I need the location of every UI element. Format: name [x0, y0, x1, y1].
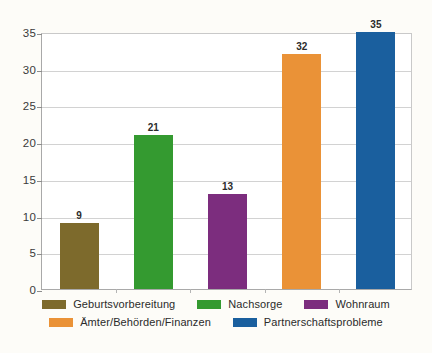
y-axis-tick-mark — [37, 144, 42, 145]
legend-row: GeburtsvorbereitungNachsorgeWohnraum — [0, 298, 432, 310]
bar-value-label: 35 — [356, 19, 396, 30]
legend-entry[interactable]: Wohnraum — [304, 298, 389, 310]
x-axis-tick-mark — [339, 289, 340, 293]
bar-value-label: 9 — [59, 210, 99, 221]
x-axis-tick-mark — [116, 289, 117, 293]
y-axis-tick-label: 25 — [6, 100, 36, 112]
legend-label: Nachsorge — [228, 298, 282, 310]
y-axis-tick-mark — [37, 291, 42, 292]
x-axis-tick-mark — [265, 289, 266, 293]
y-axis-tick-label: 35 — [6, 27, 36, 39]
legend-color-swatch-icon — [197, 300, 221, 309]
bar-value-label: 13 — [208, 181, 248, 192]
legend-color-swatch-icon — [42, 300, 66, 309]
legend-label: Geburtsvorbereitung — [73, 298, 175, 310]
y-axis-tick-mark — [37, 107, 42, 108]
y-axis-tick-label: 5 — [6, 247, 36, 259]
y-axis-tick-mark — [37, 218, 42, 219]
y-axis-tick-mark — [37, 34, 42, 35]
y-axis-tick-label: 10 — [6, 211, 36, 223]
legend-label: Partnerschaftsprobleme — [264, 316, 383, 328]
legend-entry[interactable]: Ämter/Behörden/Finanzen — [49, 316, 211, 328]
x-axis-tick-mark — [190, 289, 191, 293]
legend-entry[interactable]: Nachsorge — [197, 298, 282, 310]
y-axis-tick-label: 0 — [6, 284, 36, 296]
legend-label: Ämter/Behörden/Finanzen — [80, 316, 211, 328]
plot-area: 921133235 — [41, 33, 412, 290]
y-axis-tick-mark — [37, 254, 42, 255]
legend-entry[interactable]: Partnerschaftsprobleme — [233, 316, 383, 328]
legend-row: Ämter/Behörden/FinanzenPartnerschaftspro… — [0, 316, 432, 328]
chart-legend: GeburtsvorbereitungNachsorgeWohnraumÄmte… — [0, 298, 432, 334]
bar-value-label: 21 — [133, 122, 173, 133]
legend-color-swatch-icon — [49, 318, 73, 327]
bar — [134, 135, 173, 289]
legend-entry[interactable]: Geburtsvorbereitung — [42, 298, 175, 310]
bar — [356, 32, 395, 289]
y-axis-tick-mark — [37, 181, 42, 182]
legend-color-swatch-icon — [233, 318, 257, 327]
bar-chart-figure: 05101520253035 921133235 Geburtsvorberei… — [0, 0, 432, 353]
y-axis-tick-label: 15 — [6, 174, 36, 186]
legend-color-swatch-icon — [304, 300, 328, 309]
y-axis-tick-mark — [37, 71, 42, 72]
bar-value-label: 32 — [282, 41, 322, 52]
bar — [60, 223, 99, 289]
bar — [282, 54, 321, 289]
bar — [208, 194, 247, 289]
legend-label: Wohnraum — [335, 298, 389, 310]
y-axis-tick-label: 30 — [6, 64, 36, 76]
y-axis-tick-label: 20 — [6, 137, 36, 149]
